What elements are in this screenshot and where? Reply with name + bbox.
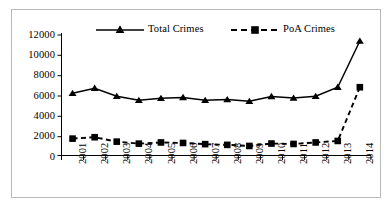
x-tick-label: 2004 <box>143 143 154 164</box>
line-chart: Total Crimes PoA Crimes 12000 10000 8000… <box>0 0 392 208</box>
x-tick-label: 2002 <box>99 143 110 164</box>
x-tick-label: 2011 <box>298 143 309 164</box>
x-tick-label: 2012 <box>320 143 331 164</box>
x-tick-label: 2014 <box>364 143 375 164</box>
x-tick-label: 2006 <box>188 143 199 164</box>
x-tick-label: 2005 <box>166 143 177 164</box>
x-tick-label: 2009 <box>254 143 265 164</box>
x-tick-label: 2008 <box>232 143 243 164</box>
x-tick-label: 2001 <box>77 143 88 164</box>
x-tick-label: 2003 <box>121 143 132 164</box>
x-axis-tick-labels: 2001200220032004200520062007200820092010… <box>0 0 392 208</box>
x-tick-label: 2013 <box>342 143 353 164</box>
x-tick-label: 2010 <box>276 143 287 164</box>
x-tick-label: 2007 <box>210 143 221 164</box>
